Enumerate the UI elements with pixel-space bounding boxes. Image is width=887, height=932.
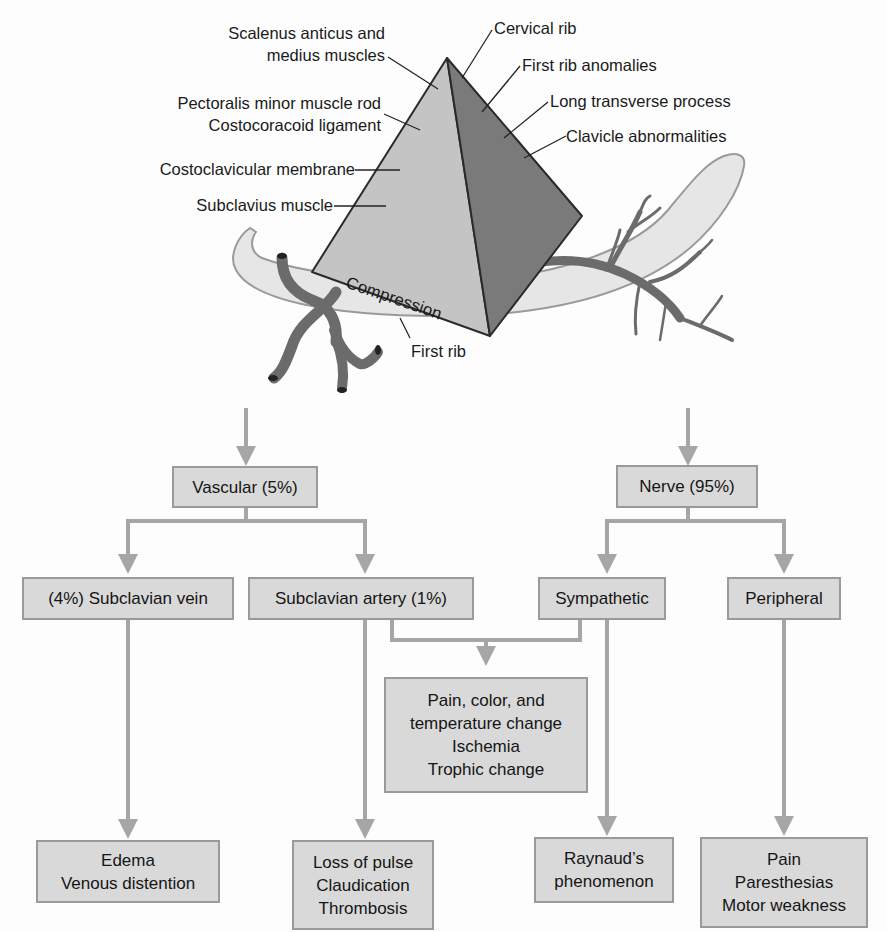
label-long-transverse-process: Long transverse process bbox=[550, 90, 731, 112]
box-text-line: Loss of pulse bbox=[313, 851, 413, 874]
box-peripheral-outcome: Pain Paresthesias Motor weakness bbox=[700, 837, 868, 928]
label-line: Costoclavicular membrane bbox=[160, 160, 355, 178]
box-text: Nerve (95%) bbox=[639, 475, 734, 498]
box-text: Subclavian artery (1%) bbox=[275, 587, 447, 610]
label-line: medius muscles bbox=[228, 44, 385, 66]
box-text-line: Paresthesias bbox=[735, 871, 833, 894]
label-line: Subclavius muscle bbox=[196, 196, 333, 214]
box-text: (4%) Subclavian vein bbox=[48, 587, 208, 610]
label-clavicle-abnormalities: Clavicle abnormalities bbox=[566, 125, 726, 147]
label-scalenus: Scalenus anticus and medius muscles bbox=[228, 22, 385, 66]
box-text-line: Motor weakness bbox=[722, 894, 846, 917]
box-vascular: Vascular (5%) bbox=[172, 466, 318, 508]
box-text-line: Raynaud’s bbox=[564, 847, 644, 870]
box-text-line: Pain, color, and bbox=[427, 689, 544, 712]
box-text-line: Pain bbox=[767, 848, 801, 871]
box-text-line: Edema bbox=[101, 849, 155, 872]
box-text: Vascular (5%) bbox=[192, 476, 298, 499]
box-text-line: phenomenon bbox=[554, 870, 653, 893]
box-text-line: Venous distention bbox=[61, 872, 195, 895]
label-cervical-rib: Cervical rib bbox=[494, 17, 577, 39]
label-subclavius: Subclavius muscle bbox=[196, 194, 333, 216]
box-text-line: Thrombosis bbox=[319, 897, 408, 920]
box-text: Peripheral bbox=[745, 587, 823, 610]
box-text-line: temperature change bbox=[410, 712, 562, 735]
box-subclavian-artery: Subclavian artery (1%) bbox=[248, 577, 474, 620]
box-pain-color-temperature: Pain, color, and temperature change Isch… bbox=[384, 677, 588, 793]
box-artery-outcome: Loss of pulse Claudication Thrombosis bbox=[292, 840, 434, 930]
box-text-line: Claudication bbox=[316, 874, 410, 897]
box-vein-outcome: Edema Venous distention bbox=[36, 840, 220, 903]
box-sympathetic: Sympathetic bbox=[538, 577, 666, 620]
box-nerve: Nerve (95%) bbox=[616, 465, 758, 508]
label-line: Costocoracoid ligament bbox=[177, 114, 381, 136]
label-pectoralis: Pectoralis minor muscle rod Costocoracoi… bbox=[177, 92, 381, 136]
label-first-rib-anomalies: First rib anomalies bbox=[522, 54, 657, 76]
box-sympathetic-outcome: Raynaud’s phenomenon bbox=[534, 837, 674, 903]
box-text: Sympathetic bbox=[555, 587, 649, 610]
box-text-line: Ischemia bbox=[452, 735, 520, 758]
box-subclavian-vein: (4%) Subclavian vein bbox=[22, 577, 234, 620]
label-first-rib: First rib bbox=[411, 340, 466, 362]
label-costoclavicular: Costoclavicular membrane bbox=[160, 158, 355, 180]
box-peripheral: Peripheral bbox=[727, 577, 841, 620]
thoracic-outlet-syndrome-diagram: Scalenus anticus and medius muscles Pect… bbox=[0, 0, 887, 932]
label-line: Scalenus anticus and bbox=[228, 22, 385, 44]
label-line: Pectoralis minor muscle rod bbox=[177, 92, 381, 114]
box-text-line: Trophic change bbox=[428, 758, 545, 781]
